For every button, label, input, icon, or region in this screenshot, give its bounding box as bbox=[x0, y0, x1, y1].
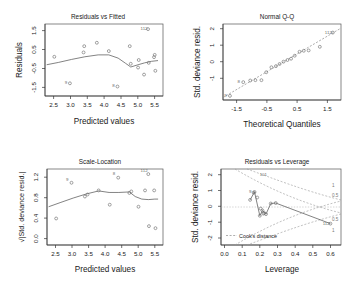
y-tick-label: 0.0 bbox=[32, 234, 39, 243]
data-points bbox=[53, 28, 157, 88]
x-tick-label: 0.3 bbox=[273, 250, 282, 257]
x-tick-label: 0.4 bbox=[291, 250, 300, 257]
x-tick-label: -1.5 bbox=[231, 105, 242, 112]
y-tick-label: -0.5 bbox=[30, 63, 37, 74]
series-line bbox=[47, 55, 158, 67]
legend-label: Cook's distance bbox=[239, 233, 277, 239]
x-tick-label: 4.5 bbox=[117, 250, 126, 257]
x-tick-label: 5.5 bbox=[150, 250, 159, 257]
plot-residuals-vs-fitted: Residuals vs Fitted 2.5 3.0 3.5 4.0 4.5 … bbox=[0, 0, 177, 145]
y-tick-label: 0.5 bbox=[30, 45, 37, 54]
data-point bbox=[318, 45, 321, 48]
data-point bbox=[53, 55, 56, 58]
y-tick-label: -2 bbox=[206, 235, 213, 241]
data-point bbox=[229, 94, 232, 97]
y-tick-label: 2 bbox=[206, 172, 213, 176]
data-point bbox=[129, 62, 132, 65]
data-point bbox=[83, 195, 86, 198]
x-tick-label: 0.1 bbox=[238, 250, 247, 257]
plot-frame bbox=[45, 24, 163, 96]
x-tick-label: 2.5 bbox=[51, 250, 60, 257]
point-label: 8 bbox=[238, 79, 241, 84]
y-tick-label: 1 bbox=[206, 188, 213, 192]
data-point bbox=[256, 196, 259, 199]
data-point bbox=[97, 189, 100, 192]
x-axis-label: Predicted values bbox=[75, 265, 136, 274]
y-axis-label: Std. deviance resid. bbox=[191, 171, 200, 243]
point-labels: 98112 bbox=[66, 168, 148, 182]
data-point bbox=[260, 79, 263, 82]
data-point bbox=[108, 203, 111, 206]
x-tick-label: 4.5 bbox=[117, 101, 126, 108]
plot-residuals-vs-leverage: Residuals vs Leverage 0.0 0.1 0.2 0.3 0.… bbox=[177, 145, 354, 290]
data-point bbox=[95, 41, 98, 44]
data-point bbox=[143, 73, 146, 76]
cook-contour-label: 0.5 bbox=[332, 217, 339, 222]
x-axis: -1.5 -0.5 0.5 1.5 bbox=[223, 100, 341, 112]
data-point bbox=[83, 45, 86, 48]
point-label: 9 bbox=[65, 80, 68, 85]
x-axis: 2.5 3.0 3.5 4.0 4.5 5.0 5.5 bbox=[47, 245, 163, 257]
x-tick-label: 0.5 bbox=[293, 105, 302, 112]
x-tick-label: 0.2 bbox=[255, 250, 264, 257]
y-axis: 1.5 0.5 -0.5 -1.5 bbox=[30, 24, 45, 96]
x-axis-label: Leverage bbox=[265, 265, 300, 274]
y-axis-label: √|Std. deviance resid.| bbox=[17, 171, 26, 242]
x-axis-label: Predicted values bbox=[74, 117, 135, 126]
loess-smoother-line bbox=[49, 191, 158, 207]
x-tick-label: 0.0 bbox=[220, 250, 229, 257]
residuals-vs-fitted-svg: Residuals vs Fitted 2.5 3.0 3.5 4.0 4.5 … bbox=[0, 0, 177, 145]
data-point bbox=[128, 45, 131, 48]
data-points bbox=[229, 31, 335, 97]
scale-location-svg: Scale-Location 2.5 3.0 3.5 4.0 4.5 5.0 5… bbox=[0, 145, 177, 290]
cooks-distance-legend: Cook's distance bbox=[226, 233, 277, 239]
y-tick-label: 1.2 bbox=[32, 172, 39, 181]
data-point bbox=[107, 50, 110, 53]
diagnostic-plot-grid: Residuals vs Fitted 2.5 3.0 3.5 4.0 4.5 … bbox=[0, 0, 354, 290]
data-point bbox=[137, 205, 140, 208]
y-axis: 2 1 0 -1 bbox=[208, 24, 223, 100]
point-label: 8 bbox=[112, 83, 115, 88]
cook-contour-label: 0.5 bbox=[332, 193, 339, 198]
data-point bbox=[154, 227, 157, 230]
data-point bbox=[290, 57, 293, 60]
x-tick-label: -0.5 bbox=[262, 105, 273, 112]
x-tick-label: 3.0 bbox=[66, 101, 75, 108]
point-label: 8 bbox=[113, 171, 116, 176]
residuals-vs-leverage-svg: Residuals vs Leverage 0.0 0.1 0.2 0.3 0.… bbox=[177, 145, 354, 290]
x-axis: 2.5 3.0 3.5 4.0 4.5 5.0 5.5 bbox=[45, 96, 163, 108]
data-point bbox=[70, 181, 73, 184]
y-tick-label: -1 bbox=[208, 75, 215, 81]
point-label: 112 bbox=[141, 26, 149, 31]
point-labels: 98112 bbox=[65, 26, 148, 88]
x-tick-label: 3.5 bbox=[84, 250, 93, 257]
data-point bbox=[137, 59, 140, 62]
y-tick-label: 0 bbox=[208, 59, 215, 63]
point-label: 112 bbox=[141, 168, 149, 173]
x-tick-label: 3.5 bbox=[83, 101, 92, 108]
data-point bbox=[242, 81, 245, 84]
point-label: 9 bbox=[249, 189, 252, 194]
x-tick-label: 0.5 bbox=[308, 250, 317, 257]
plot-title: Scale-Location bbox=[79, 158, 122, 165]
plot-scale-location: Scale-Location 2.5 3.0 3.5 4.0 4.5 5.0 5… bbox=[0, 145, 177, 290]
data-point bbox=[116, 85, 119, 88]
y-tick-label: 1 bbox=[208, 43, 215, 47]
plot-title: Normal Q-Q bbox=[260, 13, 294, 21]
data-point bbox=[270, 66, 273, 69]
y-axis-label: Residuals bbox=[15, 42, 24, 78]
x-tick-label: 1.5 bbox=[323, 105, 332, 112]
y-tick-label: 0 bbox=[206, 204, 213, 208]
series-line bbox=[49, 191, 158, 207]
y-axis-label: Std. deviance resid. bbox=[193, 26, 202, 98]
x-tick-label: 2.5 bbox=[49, 101, 58, 108]
data-point bbox=[254, 79, 257, 82]
data-point bbox=[154, 69, 157, 72]
data-point bbox=[55, 217, 58, 220]
x-tick-label: 4.0 bbox=[101, 250, 110, 257]
data-point bbox=[148, 225, 151, 228]
plot-normal-qq: Normal Q-Q -1.5 -0.5 0.5 1.5 Theoretical… bbox=[177, 0, 354, 145]
data-point bbox=[307, 49, 310, 52]
x-axis: 0.0 0.1 0.2 0.3 0.4 0.5 0.6 bbox=[220, 245, 341, 257]
y-tick-label: -1.5 bbox=[30, 82, 37, 93]
